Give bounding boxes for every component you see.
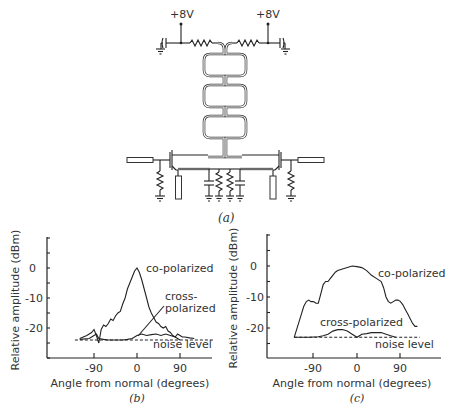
bypass-capacitor-right-icon bbox=[268, 38, 290, 54]
circuit-diagram: +8V +8V bbox=[127, 8, 324, 225]
co-polarized-label: co-polarized bbox=[378, 267, 446, 280]
caption-c: (c) bbox=[350, 392, 365, 405]
bias-resistor-left-icon bbox=[181, 40, 218, 46]
cross-polarized-leader bbox=[138, 306, 164, 336]
co-polarized-label: co-polarized bbox=[146, 262, 214, 275]
y-axis-label: Relative amplitude (dBm) bbox=[9, 230, 22, 371]
source-resistor-2-icon bbox=[226, 169, 234, 201]
y-tick-label: 0 bbox=[29, 262, 36, 275]
source-stub-right bbox=[270, 176, 276, 199]
source-stub-left bbox=[176, 176, 182, 199]
y-tick-label: 0 bbox=[250, 260, 257, 273]
input-stub-right bbox=[298, 158, 324, 163]
transistor-right-icon bbox=[273, 150, 281, 176]
supply-label-left: +8V bbox=[170, 8, 194, 21]
gate-resistor-left-icon bbox=[155, 160, 165, 201]
x-tick-label: 0 bbox=[354, 362, 361, 375]
caption-a: (a) bbox=[218, 211, 235, 225]
cross-polarized-curve bbox=[294, 330, 396, 338]
bypass-capacitor-left-icon bbox=[156, 38, 181, 54]
caption-b: (b) bbox=[129, 392, 145, 405]
y-tick-label: -20 bbox=[25, 322, 43, 335]
x-tick-label: 0 bbox=[134, 362, 141, 375]
y-tick-label: -10 bbox=[25, 292, 43, 305]
gate-resistor-right-icon bbox=[286, 160, 296, 201]
bias-resistor-right-icon bbox=[232, 40, 268, 46]
meander-line-icon bbox=[204, 43, 246, 157]
chart-b: 0 -10 -20 -90 0 90 Angle from normal (de… bbox=[9, 230, 216, 405]
x-axis-label: Angle from normal (degrees) bbox=[273, 377, 432, 390]
x-axis-label: Angle from normal (degrees) bbox=[51, 377, 210, 390]
supply-pin-right-icon bbox=[267, 23, 270, 45]
x-tick-label: -90 bbox=[304, 362, 322, 375]
y-tick-label: -10 bbox=[246, 291, 264, 304]
source-capacitor-1-icon bbox=[204, 169, 214, 201]
transistor-left-icon bbox=[170, 150, 178, 176]
chart-c: 0 -10 -20 -90 0 90 Angle from normal (de… bbox=[227, 228, 446, 405]
x-tick-label: -90 bbox=[85, 362, 103, 375]
cross-polarized-label: cross-polarized bbox=[320, 316, 403, 329]
noise-level-label: noise level bbox=[153, 338, 212, 351]
noise-level-label: noise level bbox=[375, 338, 434, 351]
x-tick-label: 90 bbox=[173, 362, 187, 375]
supply-label-right: +8V bbox=[256, 8, 280, 21]
y-tick-label: -20 bbox=[246, 322, 264, 335]
y-axis-label: Relative amplitude (dBm) bbox=[227, 228, 240, 369]
figure: +8V +8V bbox=[0, 0, 451, 409]
supply-pin-left-icon bbox=[180, 23, 183, 45]
source-resistor-1-icon bbox=[215, 169, 223, 201]
x-tick-label: 90 bbox=[393, 362, 407, 375]
cross-polarized-label: polarized bbox=[165, 302, 216, 315]
source-capacitor-2-icon bbox=[235, 169, 245, 201]
input-stub-left bbox=[127, 158, 153, 163]
